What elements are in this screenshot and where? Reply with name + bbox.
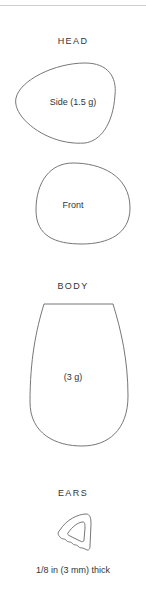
body-label: (3 g)	[0, 372, 146, 382]
top-rule	[0, 5, 146, 6]
body-heading: BODY	[0, 281, 146, 291]
head-front-label: Front	[0, 200, 146, 210]
ear-outline	[0, 510, 146, 552]
ears-heading: EARS	[0, 488, 146, 498]
ears-thickness-label: 1/8 in (3 mm) thick	[0, 565, 146, 575]
head-side-outline	[0, 55, 146, 165]
head-side-label: Side (1.5 g)	[0, 97, 146, 107]
head-heading: HEAD	[0, 36, 146, 46]
